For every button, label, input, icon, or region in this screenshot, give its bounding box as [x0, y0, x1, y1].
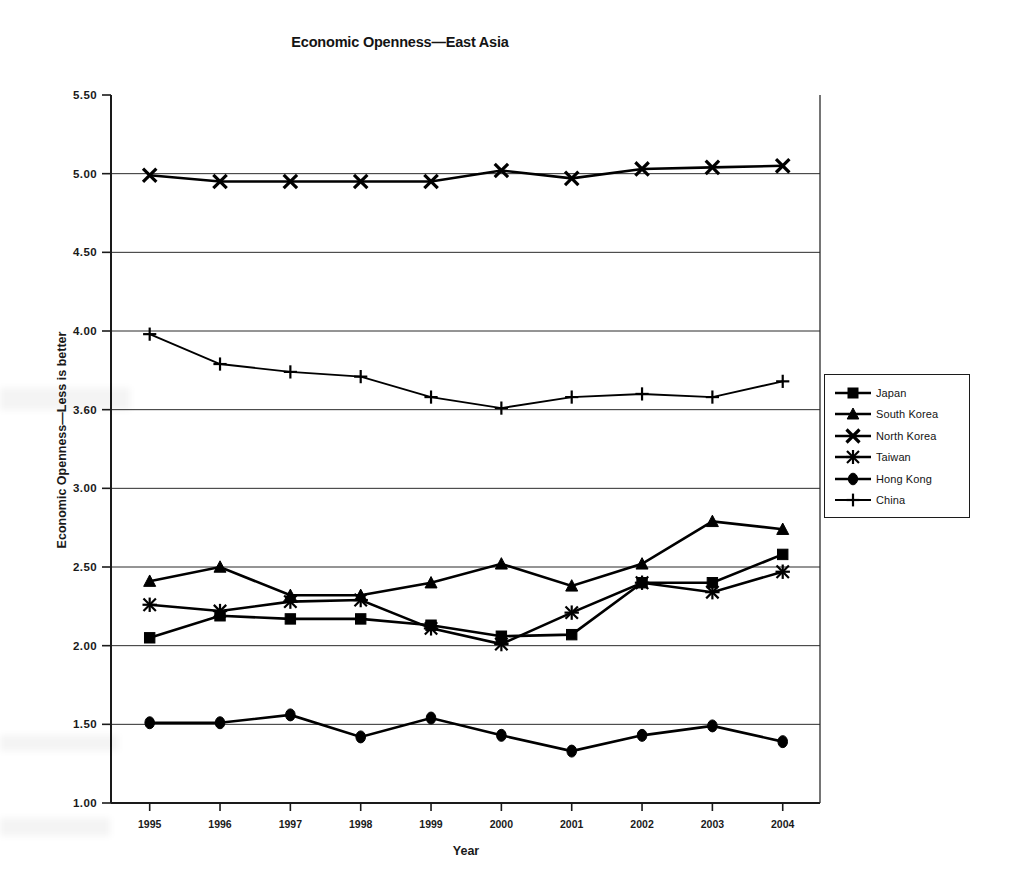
x-axis-tick-label: 1996	[208, 818, 232, 830]
series-hong-kong	[145, 709, 788, 757]
y-axis-tick-label: 1.50	[73, 718, 97, 730]
gridlines-group	[111, 174, 820, 725]
chart-legend: JapanSouth KoreaNorth KoreaTaiwanHong Ko…	[824, 374, 970, 518]
x-axis-tick-label: 1995	[138, 818, 162, 830]
y-axis-tick-label: 4.50	[73, 246, 97, 258]
x-axis-tick-label: 1999	[419, 818, 443, 830]
x-axis-tick-label: 2003	[701, 818, 725, 830]
legend-item-label: China	[873, 494, 905, 506]
circle-marker-icon	[833, 469, 873, 489]
y-axis-tick-label: 1.00	[73, 797, 97, 809]
plot-frame	[111, 95, 820, 803]
legend-item-taiwan[interactable]: Taiwan	[833, 447, 963, 469]
y-axis-tick-label: 3.00	[73, 482, 97, 494]
y-axis-tick-label: 2.50	[73, 561, 97, 573]
x-axis-tick-label: 1998	[349, 818, 373, 830]
series-taiwan	[142, 565, 789, 652]
legend-item-label: Taiwan	[873, 451, 911, 463]
legend-item-hong-kong[interactable]: Hong Kong	[833, 468, 963, 490]
series-south-korea	[144, 515, 789, 600]
triangle-marker-icon	[833, 404, 873, 424]
x-axis-ticks: 1995199619971998199920002001200220032004	[138, 803, 795, 830]
legend-item-label: South Korea	[873, 408, 938, 420]
series-japan	[144, 549, 787, 643]
y-axis-tick-label: 2.00	[73, 640, 97, 652]
legend-item-japan[interactable]: Japan	[833, 382, 963, 404]
y-axis-tick-label: 3.60	[73, 404, 97, 416]
x-axis-tick-label: 1997	[279, 818, 303, 830]
x-axis-tick-label: 2001	[560, 818, 584, 830]
y-axis-ticks: 1.001.502.002.503.003.604.004.505.005.50	[73, 89, 111, 809]
x-axis-tick-label: 2002	[630, 818, 654, 830]
legend-item-label: North Korea	[873, 430, 936, 442]
plus-marker-icon	[833, 490, 873, 510]
y-axis-title: Economic Openness—Less is better	[55, 332, 69, 549]
square-marker-icon	[833, 383, 873, 403]
legend-item-south-korea[interactable]: South Korea	[833, 404, 963, 426]
x-marker-icon	[833, 426, 873, 446]
y-axis-tick-label: 5.00	[73, 168, 97, 180]
x-axis-title: Year	[453, 844, 480, 858]
legend-item-north-korea[interactable]: North Korea	[833, 425, 963, 447]
x-axis-tick-label: 2000	[490, 818, 514, 830]
star-marker-icon	[833, 447, 873, 467]
legend-item-label: Hong Kong	[873, 473, 932, 485]
legend-item-china[interactable]: China	[833, 490, 963, 512]
legend-item-label: Japan	[873, 387, 906, 399]
y-axis-tick-label: 5.50	[73, 89, 97, 101]
y-axis-tick-label: 4.00	[73, 325, 97, 337]
series-china	[143, 328, 789, 415]
data-series-group	[142, 159, 789, 757]
x-axis-tick-label: 2004	[771, 818, 795, 830]
